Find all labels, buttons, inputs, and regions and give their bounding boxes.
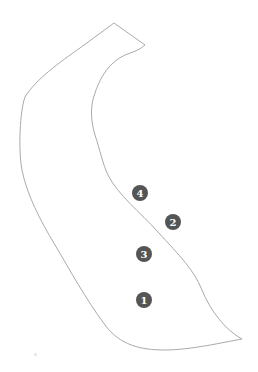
marker-2-label: 2 [170,217,177,228]
marker-3-label: 3 [141,249,148,260]
region-outline [20,23,242,350]
marker-1[interactable]: 1 [136,292,152,308]
marker-1-label: 1 [141,295,148,306]
marker-3[interactable]: 3 [136,246,152,262]
map-area: 4 2 3 1 [0,0,258,372]
marker-2[interactable]: 2 [165,214,181,230]
marker-4[interactable]: 4 [132,185,148,201]
marker-4-label: 4 [137,188,144,199]
map-speck-dot [34,353,37,356]
